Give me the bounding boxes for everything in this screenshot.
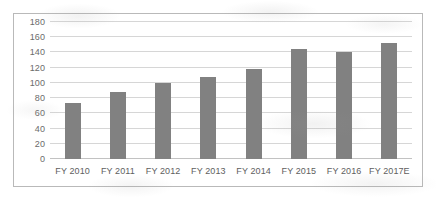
x-axis-tick-label: FY 2014 [236,166,271,176]
bar [381,43,397,159]
y-axis-tick-label: 40 [35,124,45,134]
bar [291,49,307,159]
y-axis-tick-label: 120 [30,63,45,73]
plot-area: 020406080100120140160180 FY 2010FY 2011F… [50,22,412,159]
x-axis-tick-label: FY 2013 [191,166,226,176]
y-axis-tick-label: 20 [35,139,45,149]
y-axis-tick-label: 140 [30,47,45,57]
bar [155,83,171,159]
x-axis-tick-label: FY 2010 [55,166,90,176]
bar [246,69,262,159]
chart-frame: 020406080100120140160180 FY 2010FY 2011F… [13,13,423,187]
y-axis-tick-label: 80 [35,93,45,103]
y-axis-tick-label: 160 [30,32,45,42]
x-axis-tick-label: FY 2011 [101,166,135,176]
bar [65,103,81,159]
y-axis-tick-label: 180 [30,17,45,27]
y-axis-tick-label: 0 [40,154,45,164]
x-axis-tick-label: FY 2015 [282,166,317,176]
bar [110,92,126,159]
bar [336,52,352,159]
x-axis-tick-label: FY 2017E [369,166,410,176]
y-axis-tick-label: 60 [35,108,45,118]
x-axis-tick-label: FY 2012 [146,166,181,176]
y-axis-tick-label: 100 [30,78,45,88]
bar [200,77,216,159]
x-axis-tick-label: FY 2016 [327,166,362,176]
bars-group [50,22,412,159]
